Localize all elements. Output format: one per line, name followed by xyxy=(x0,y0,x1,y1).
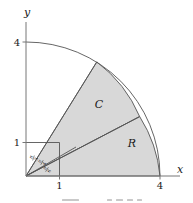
region-label-r: R xyxy=(127,137,136,150)
x-axis-label: x xyxy=(177,163,184,176)
y-tick-label-1: 1 xyxy=(14,137,20,148)
x-tick-label-1: 1 xyxy=(56,180,62,191)
caption-mark-1 xyxy=(62,199,79,200)
y-axis-label: y xyxy=(23,6,31,19)
caption-mark-5 xyxy=(137,199,142,200)
x-tick-label-4: 4 xyxy=(157,180,163,191)
y-tick-label-4: 4 xyxy=(14,37,20,48)
caption-mark-3 xyxy=(116,199,123,200)
caption-mark-2 xyxy=(107,199,112,200)
caption-mark-4 xyxy=(127,199,133,200)
region-label-c: C xyxy=(95,98,104,111)
polar-region-diagram: y x 4 1 1 4 C R π 3 π 4 π 6 xyxy=(0,0,193,203)
figure-container: y x 4 1 1 4 C R π 3 π 4 π 6 xyxy=(0,0,193,203)
caption-strip xyxy=(0,194,193,203)
